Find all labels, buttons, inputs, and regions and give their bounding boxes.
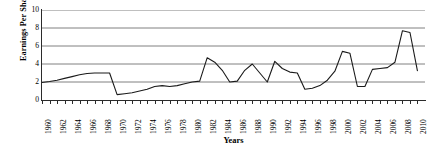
x-axis-tick-label: 2004 bbox=[375, 119, 383, 134]
x-axis-tick-label: 1988 bbox=[255, 119, 263, 134]
x-axis-tick-mark bbox=[207, 100, 208, 104]
x-axis-tick-mark bbox=[170, 100, 171, 104]
x-axis-tick-label: 1968 bbox=[105, 119, 113, 134]
x-axis-tick-mark bbox=[222, 100, 223, 104]
x-axis-tick-label: 1986 bbox=[240, 119, 248, 134]
x-axis-tick-mark bbox=[387, 100, 388, 104]
plot-area bbox=[42, 10, 425, 100]
x-axis-tick-label: 1966 bbox=[90, 119, 98, 134]
x-axis-tick-mark bbox=[162, 100, 163, 104]
x-axis-tick-mark bbox=[267, 100, 268, 104]
x-axis-tick-mark bbox=[312, 100, 313, 104]
earnings-per-share-line-chart: Earnings Per Share ($) 0246810 196019621… bbox=[0, 0, 433, 154]
x-axis-tick-label: 2010 bbox=[420, 119, 428, 134]
y-axis-tick-label: 6 bbox=[19, 42, 39, 50]
x-axis-tick-mark bbox=[87, 100, 88, 104]
x-axis-tick-mark bbox=[65, 100, 66, 104]
x-axis-tick-mark bbox=[80, 100, 81, 104]
x-axis-tick-mark bbox=[275, 100, 276, 104]
y-axis-tick-label: 4 bbox=[19, 60, 39, 68]
x-axis-tick-mark bbox=[125, 100, 126, 104]
x-axis-tick-mark bbox=[50, 100, 51, 104]
x-axis-tick-label: 2006 bbox=[390, 119, 398, 134]
x-axis-tick-mark bbox=[110, 100, 111, 104]
y-axis-tick-label: 10 bbox=[19, 6, 39, 14]
x-axis-tick-mark bbox=[327, 100, 328, 104]
x-axis-tick-mark bbox=[95, 100, 96, 104]
x-axis-tick-mark bbox=[245, 100, 246, 104]
x-axis-title: Years bbox=[42, 136, 425, 145]
y-axis-tick-label: 8 bbox=[19, 24, 39, 32]
y-axis-tick-labels: 0246810 bbox=[18, 0, 39, 154]
x-axis-tick-mark bbox=[102, 100, 103, 104]
x-axis-tick-mark bbox=[200, 100, 201, 104]
x-axis-tick-mark bbox=[215, 100, 216, 104]
x-axis-tick-mark bbox=[350, 100, 351, 104]
x-axis-tick-label: 1972 bbox=[135, 119, 143, 134]
x-axis-tick-label: 2008 bbox=[405, 119, 413, 134]
x-axis-tick-label: 1982 bbox=[210, 119, 218, 134]
x-axis-tick-label: 1970 bbox=[120, 119, 128, 134]
x-axis-tick-mark bbox=[335, 100, 336, 104]
data-line-series bbox=[42, 10, 425, 100]
y-axis-tick-label: 2 bbox=[19, 78, 39, 86]
x-axis-tick-mark bbox=[417, 100, 418, 104]
x-axis-tick-mark bbox=[282, 100, 283, 104]
x-axis-tick-label: 1978 bbox=[180, 119, 188, 134]
x-axis-tick-mark bbox=[155, 100, 156, 104]
x-axis-tick-label: 1960 bbox=[45, 119, 53, 134]
x-axis-tick-mark bbox=[140, 100, 141, 104]
x-axis-tick-label: 2000 bbox=[345, 119, 353, 134]
x-axis-tick-mark bbox=[252, 100, 253, 104]
x-axis-tick-label: 1992 bbox=[285, 119, 293, 134]
x-axis-tick-mark bbox=[185, 100, 186, 104]
x-axis-tick-mark bbox=[395, 100, 396, 104]
x-axis-tick-label: 1976 bbox=[165, 119, 173, 134]
x-axis-tick-labels: 1960196219641966196819701972197419761978… bbox=[42, 106, 425, 136]
x-axis-tick-label: 1974 bbox=[150, 119, 158, 134]
x-axis-tick-label: 1980 bbox=[195, 119, 203, 134]
x-axis-tick-mark bbox=[402, 100, 403, 104]
x-axis-tick-mark bbox=[320, 100, 321, 104]
x-axis-tick-mark bbox=[57, 100, 58, 104]
x-axis-tick-mark bbox=[260, 100, 261, 104]
x-axis-tick-label: 1998 bbox=[330, 119, 338, 134]
x-axis-tick-mark bbox=[380, 100, 381, 104]
x-axis-tick-label: 1964 bbox=[75, 119, 83, 134]
x-axis-tick-mark bbox=[305, 100, 306, 104]
x-axis-tick-mark bbox=[342, 100, 343, 104]
y-axis-tick-label: 0 bbox=[19, 96, 39, 104]
x-axis-tick-mark bbox=[230, 100, 231, 104]
x-axis-tick-label: 2002 bbox=[360, 119, 368, 134]
x-axis-tick-label: 1996 bbox=[315, 119, 323, 134]
x-axis-tick-mark bbox=[237, 100, 238, 104]
x-axis-tick-mark bbox=[147, 100, 148, 104]
x-axis-tick-mark bbox=[297, 100, 298, 104]
x-axis-tick-mark bbox=[410, 100, 411, 104]
x-axis-tick-mark bbox=[372, 100, 373, 104]
x-axis-tick-mark bbox=[357, 100, 358, 104]
x-axis-tick-label: 1990 bbox=[270, 119, 278, 134]
x-axis-tick-mark bbox=[177, 100, 178, 104]
x-axis-tick-mark bbox=[72, 100, 73, 104]
x-axis-tick-label: 1984 bbox=[225, 119, 233, 134]
x-axis-tick-mark bbox=[132, 100, 133, 104]
x-axis-tick-mark bbox=[117, 100, 118, 104]
x-axis-tick-mark bbox=[365, 100, 366, 104]
x-axis-tick-mark bbox=[290, 100, 291, 104]
x-axis-tick-label: 1994 bbox=[300, 119, 308, 134]
x-axis-tick-label: 1962 bbox=[60, 119, 68, 134]
x-axis-tick-mark bbox=[42, 100, 43, 104]
x-axis-tick-mark bbox=[192, 100, 193, 104]
